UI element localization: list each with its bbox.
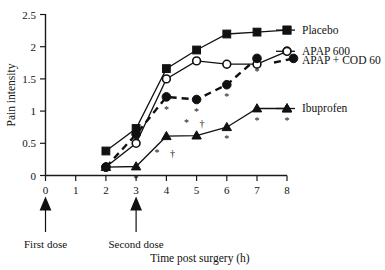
legend-marker-open-circle-icon xyxy=(283,47,291,55)
x-tick-label-2: 2 xyxy=(103,184,109,196)
legend-marker-filled-triangle-icon xyxy=(282,104,291,112)
legend: Placebo APAP 600 APAP + COD 60 Ibuprofen xyxy=(274,24,381,115)
sig-mark-ibuprofen-5-asterisk: * xyxy=(184,117,189,128)
x-axis xyxy=(46,176,288,182)
significance-marks: * * † * † * * * * * * * xyxy=(134,66,290,184)
legend-marker-filled-circle-icon xyxy=(289,54,298,63)
first-dose-arrow xyxy=(41,198,51,232)
x-tick-label-8: 8 xyxy=(284,184,290,196)
y-tick-label-0: 0 xyxy=(31,170,37,182)
y-tick-label-1-5: 1.5 xyxy=(22,73,36,85)
x-tick-label-6: 6 xyxy=(224,184,230,196)
second-dose-label: Second dose xyxy=(108,238,163,250)
legend-label-apap-cod-60: APAP + COD 60 xyxy=(302,54,381,66)
first-dose-label: First dose xyxy=(24,238,67,250)
chart-canvas: 2.5 2 1.5 1 0.5 0 0 1 2 3 4 5 6 7 8 Pain… xyxy=(0,0,385,270)
x-tick-label-0: 0 xyxy=(43,184,49,196)
legend-item-apap-cod-60: APAP + COD 60 xyxy=(274,54,381,66)
data-point-apap600-5 xyxy=(193,57,201,65)
sig-mark-ibuprofen-4-dagger: † xyxy=(170,148,175,159)
second-dose-arrow xyxy=(131,198,141,232)
sig-mark-ibuprofen-8-asterisk: * xyxy=(285,115,290,126)
data-point-placebo-5 xyxy=(193,46,201,54)
data-point-apapcod-3 xyxy=(132,130,141,139)
sig-mark-ibuprofen-4-asterisk: * xyxy=(155,147,160,158)
x-tick-label-7: 7 xyxy=(254,184,260,196)
legend-label-placebo: Placebo xyxy=(302,24,339,36)
sig-mark-ibuprofen-6-asterisk: * xyxy=(224,133,229,144)
series-apap-cod-60 xyxy=(102,54,262,171)
sig-mark-ibuprofen-7-asterisk: * xyxy=(255,115,260,126)
data-point-placebo-2 xyxy=(102,147,110,155)
pain-intensity-chart: 2.5 2 1.5 1 0.5 0 0 1 2 3 4 5 6 7 8 Pain… xyxy=(0,0,385,270)
y-tick-label-1: 1 xyxy=(31,105,37,117)
data-point-ibuprofen-7 xyxy=(252,104,261,112)
y-axis-title: Pain intensity xyxy=(5,63,18,126)
data-point-apapcod-7 xyxy=(253,54,262,63)
data-point-ibuprofen-6 xyxy=(222,122,231,130)
y-axis xyxy=(40,14,46,176)
data-point-placebo-4 xyxy=(163,65,171,73)
sig-mark-ibuprofen-5-dagger: † xyxy=(200,118,205,129)
legend-item-ibuprofen: Ibuprofen xyxy=(276,102,348,115)
data-point-apap600-4 xyxy=(163,75,171,83)
y-tick-label-0-5: 0.5 xyxy=(22,137,36,149)
x-tick-label-5: 5 xyxy=(194,184,200,196)
sig-mark-apapcod-4-asterisk: * xyxy=(164,104,169,115)
data-point-placebo-6 xyxy=(223,30,231,38)
data-point-apapcod-6 xyxy=(223,80,232,89)
legend-label-ibuprofen: Ibuprofen xyxy=(302,102,348,115)
legend-item-placebo: Placebo xyxy=(276,24,339,36)
data-point-apap600-6 xyxy=(223,60,231,68)
x-axis-title: Time post surgery (h) xyxy=(150,252,250,265)
sig-mark-apapcod-5-asterisk: * xyxy=(194,106,199,117)
data-point-apapcod-4 xyxy=(162,93,171,102)
sig-mark-apapcod-7-asterisk: * xyxy=(255,66,260,77)
data-point-placebo-7 xyxy=(253,28,261,36)
y-tick-label-2-5: 2.5 xyxy=(22,9,36,21)
sig-mark-apapcod-6-asterisk: * xyxy=(224,91,229,102)
data-point-apapcod-5 xyxy=(192,95,201,104)
sig-mark-ibuprofen-3-asterisk: * xyxy=(134,173,139,184)
x-tick-label-4: 4 xyxy=(164,184,170,196)
x-tick-label-1: 1 xyxy=(73,184,79,196)
y-tick-label-2: 2 xyxy=(31,41,37,53)
legend-marker-filled-square-icon xyxy=(283,26,291,34)
x-tick-label-3: 3 xyxy=(133,184,139,196)
data-point-apap600-3 xyxy=(132,139,140,147)
